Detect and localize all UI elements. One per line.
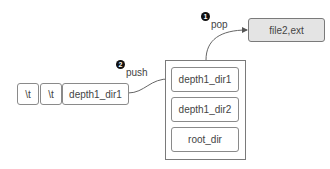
token-label: \t: [25, 89, 31, 100]
pop-label: pop: [211, 19, 228, 30]
stack-item-bottom: root_dir: [171, 127, 239, 152]
push-arrow: [128, 79, 170, 93]
stack-item-label: root_dir: [188, 134, 222, 145]
token-tab-1: \t: [17, 83, 39, 105]
token-label: depth1_dir1: [69, 89, 122, 100]
stack-item-middle: depth1_dir2: [171, 97, 239, 122]
stack-item-label: depth1_dir1: [179, 74, 232, 85]
token-label: \t: [48, 89, 54, 100]
token-tab-2: \t: [40, 83, 62, 105]
stack-item-label: depth1_dir2: [179, 104, 232, 115]
popped-file-box: file2,ext: [248, 18, 325, 42]
push-label: push: [126, 67, 148, 78]
pop-arrow: [206, 30, 247, 60]
step-2-badge: 2: [116, 60, 125, 69]
stack-item-top: depth1_dir1: [171, 67, 239, 92]
step-1-badge: 1: [201, 12, 210, 21]
token-depth1-dir1: depth1_dir1: [62, 83, 129, 105]
popped-file-label: file2,ext: [269, 25, 303, 36]
